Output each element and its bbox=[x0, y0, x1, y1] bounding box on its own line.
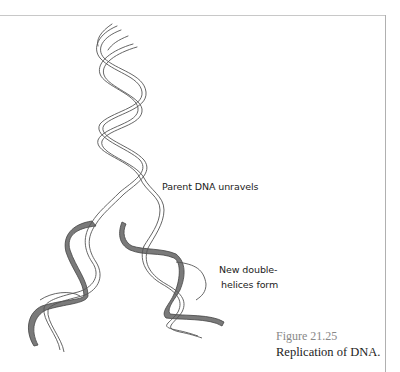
label-parent-dna-unravels: Parent DNA unravels bbox=[162, 179, 258, 194]
label-new-line1: New double- bbox=[219, 262, 278, 277]
figure-caption: Figure 21.25 Replication of DNA. bbox=[276, 328, 381, 360]
label-new-double-helices: New double- helices form bbox=[219, 262, 278, 292]
figure-number: Figure 21.25 bbox=[276, 328, 381, 344]
figure-title: Replication of DNA. bbox=[276, 344, 381, 360]
label-new-line2: helices form bbox=[219, 277, 278, 292]
